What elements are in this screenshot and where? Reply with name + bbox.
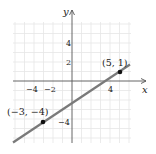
axes bbox=[13, 10, 146, 143]
point-label: (−3, −4) bbox=[7, 106, 48, 117]
y-tick-label: 2 bbox=[66, 58, 71, 67]
point-neg3-neg4 bbox=[41, 120, 46, 125]
x-tick-label: 4 bbox=[108, 85, 113, 94]
x-axis-label: x bbox=[142, 84, 148, 95]
coordinate-plane: x y −4 −2 4 4 2 −4 (5, 1) (−3, −4) bbox=[0, 0, 156, 154]
y-tick-label: 4 bbox=[66, 39, 71, 48]
y-axis-label: y bbox=[62, 6, 69, 17]
data-line bbox=[13, 65, 130, 143]
point-label: (5, 1) bbox=[102, 57, 128, 68]
point-5-1 bbox=[118, 70, 123, 75]
x-tick-label: −2 bbox=[44, 85, 56, 94]
x-tick-label: −4 bbox=[26, 85, 38, 94]
y-tick-label: −4 bbox=[58, 118, 70, 127]
